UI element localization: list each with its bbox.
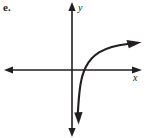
x-axis-label: x xyxy=(133,73,137,83)
curve-up-right-arrowhead xyxy=(127,40,142,48)
graph-figure: e. y x xyxy=(0,0,148,138)
curve-down-arrowhead xyxy=(74,112,82,125)
x-axis-left-arrowhead xyxy=(4,66,13,73)
y-axis-bottom-arrowhead xyxy=(68,128,75,137)
y-axis-label: y xyxy=(78,3,82,13)
y-axis-top-arrowhead xyxy=(68,2,75,11)
log-curve xyxy=(78,44,128,114)
coordinate-plane xyxy=(0,0,148,138)
